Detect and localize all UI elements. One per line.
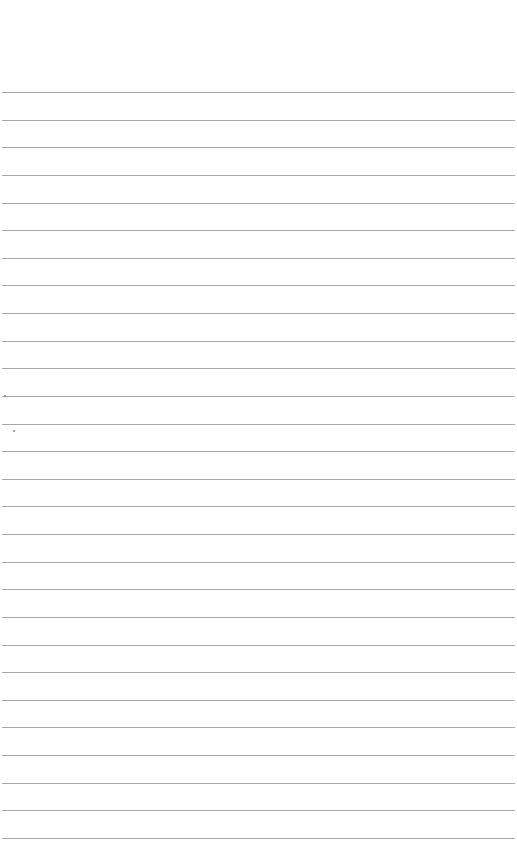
ruled-line: [2, 92, 515, 93]
ruled-line: [2, 838, 515, 839]
ruled-line: [2, 506, 515, 507]
ruled-line: [2, 534, 515, 535]
ruled-line: [2, 589, 515, 590]
ruled-line: [2, 120, 515, 121]
ruled-line: [2, 230, 515, 231]
ruled-line: [2, 451, 515, 452]
ruled-line: [2, 727, 515, 728]
ruled-line: [2, 396, 515, 397]
ruled-line: [2, 617, 515, 618]
ruled-line: [2, 424, 515, 425]
ruled-line: [2, 672, 515, 673]
lined-paper-page: [0, 0, 517, 867]
ruled-line: [2, 479, 515, 480]
scan-speck: [4, 395, 6, 397]
ruled-line: [2, 783, 515, 784]
ruled-line: [2, 562, 515, 563]
ruled-line: [2, 203, 515, 204]
ruled-line: [2, 368, 515, 369]
ruled-line: [2, 810, 515, 811]
ruled-line: [2, 700, 515, 701]
ruled-line: [2, 341, 515, 342]
ruled-line: [2, 755, 515, 756]
ruled-line: [2, 175, 515, 176]
scan-speck: [13, 430, 15, 432]
ruled-line: [2, 285, 515, 286]
ruled-line: [2, 147, 515, 148]
ruled-line: [2, 645, 515, 646]
ruled-line: [2, 313, 515, 314]
ruled-line: [2, 258, 515, 259]
